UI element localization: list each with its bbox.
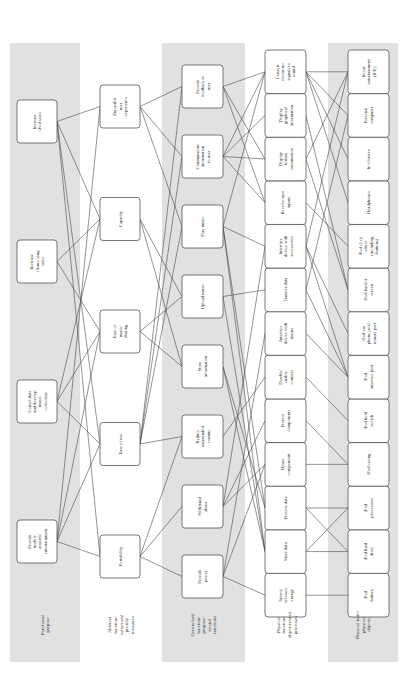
node-pfo1[interactable]: iPodbattery <box>348 573 389 617</box>
node-pfn1[interactable]: Stores/releasesenergy <box>265 573 306 617</box>
node-pfo2[interactable]: iPod harddrive <box>348 530 389 574</box>
node-gf3[interactable]: Reduceunintendedcomms <box>182 415 223 458</box>
node-label: Portability <box>118 546 123 566</box>
node-label: Personalcomputer <box>363 106 373 124</box>
node-label: Interfacedevice withaccessories <box>278 235 294 257</box>
node-label: Process data <box>283 497 288 520</box>
node-pfn10[interactable]: Receive userinputs <box>265 181 306 225</box>
node-pfn13[interactable]: Convertelectronicsignals tosound <box>265 50 306 94</box>
node-pfo11[interactable]: hi-fi/stereo <box>348 137 389 181</box>
node-pfn7[interactable]: Interfacedevice withmains <box>265 312 306 356</box>
node-pfn2[interactable]: Store data <box>265 530 306 574</box>
node-label: iPod clickwheel(includingbuttons) <box>358 236 379 256</box>
node-pfo8[interactable]: iPod backlitscreen <box>348 268 389 312</box>
node-pfn12[interactable]: Displaygraphicalinformation <box>265 94 306 138</box>
node-af3[interactable]: Ease ofmusicsharing <box>100 310 140 353</box>
node-pfn6[interactable]: Disable/enablecontrols <box>265 355 306 399</box>
node-fp2[interactable]: Consolidateand developmusiccollection <box>17 380 57 423</box>
node-pfn11[interactable]: Displaytextualinformation <box>265 137 306 181</box>
level-label-af: Abstractfunction/values andprioritymeasu… <box>107 614 134 635</box>
node-pfo5[interactable]: iPod holdswitch <box>348 399 389 443</box>
node-af2[interactable]: Ease of use <box>100 423 140 466</box>
node-pfn9[interactable]: Interfacedevice withaccessories <box>265 224 306 268</box>
node-label: Disable/enablecontrols <box>278 369 294 385</box>
node-label: Stores/releasesenergy <box>278 588 294 603</box>
node-label: Store data <box>283 542 288 561</box>
node-pfo10[interactable]: Headphones <box>348 181 389 225</box>
node-label: Ease of use <box>118 434 123 455</box>
node-label: hi-fi/stereo <box>366 148 371 169</box>
node-fp3[interactable]: IncreaseiTunes songsales <box>17 240 57 283</box>
node-gf5[interactable]: Upload music <box>182 275 223 318</box>
node-pfo9[interactable]: iPod clickwheel(includingbuttons) <box>348 224 389 268</box>
node-pfo7[interactable]: iPod earphone jack/remote port <box>348 312 389 356</box>
node-af4[interactable]: Capacity <box>100 198 140 241</box>
node-label: Ease ofmusicsharing <box>112 324 128 338</box>
node-pfo3[interactable]: iPodprocessors <box>348 486 389 530</box>
node-af5[interactable]: Enjoyableuserexperience <box>100 85 140 128</box>
node-gf6[interactable]: Play music <box>182 205 223 248</box>
abstraction-hierarchy-diagram: ProvidemobileacousticentertainmentConsol… <box>0 0 416 673</box>
node-label: IncreaseiPod sales <box>32 112 42 131</box>
node-label: Transfer data <box>283 278 288 302</box>
node-pfn3[interactable]: Process data <box>265 486 306 530</box>
node-label: iPod casing <box>366 453 371 475</box>
node-pfn4[interactable]: Housecomponents <box>265 443 306 487</box>
node-gf4[interactable]: Storeinformation <box>182 345 223 388</box>
node-gf8[interactable]: Providefeedback touser <box>182 65 223 108</box>
node-pfo13[interactable]: In-carentertainment(ICE) <box>348 50 389 94</box>
node-label: Capacity <box>118 210 123 227</box>
node-label: Upload music <box>200 284 205 310</box>
node-gf7[interactable]: Communicateinformationto user <box>182 135 223 178</box>
node-label: Headphones <box>366 191 371 214</box>
node-pfn5[interactable]: Protectcomponents <box>265 399 306 443</box>
node-label: Play music <box>200 216 205 236</box>
node-fp4[interactable]: IncreaseiPod sales <box>17 100 57 143</box>
node-af1[interactable]: Portability <box>100 535 140 578</box>
node-gf1[interactable]: Providepower <box>182 555 223 598</box>
node-pfo6[interactable]: iPodinterface port <box>348 355 389 399</box>
node-gf2[interactable]: Withstandabuse <box>182 485 223 528</box>
node-pfn8[interactable]: Transfer data <box>265 268 306 312</box>
node-label: Providepower <box>197 569 207 583</box>
node-pfo4[interactable]: iPod casing <box>348 443 389 487</box>
node-fp1[interactable]: Providemobileacousticentertainment <box>17 520 57 563</box>
node-pfo12[interactable]: Personalcomputer <box>348 94 389 138</box>
